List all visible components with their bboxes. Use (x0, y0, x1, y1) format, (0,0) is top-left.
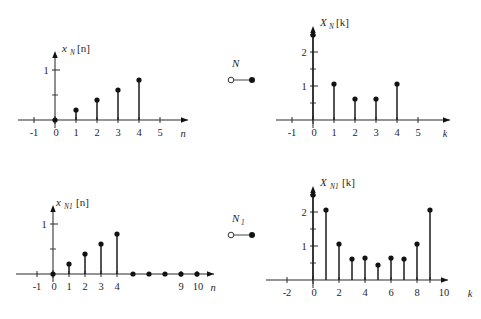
x-tick-label: 10 (439, 287, 450, 298)
y-tick-label: 1 (41, 219, 46, 230)
title-subscript: N (69, 48, 76, 57)
x-ticks (287, 276, 430, 288)
x-tick-label: 1 (73, 127, 78, 138)
x-tick-label: 0 (53, 127, 58, 138)
x-tick-labels: -2 0 2 4 6 8 10 (283, 287, 450, 298)
x-tick-label: -1 (30, 127, 39, 138)
plot-bottom-right: -2 0 2 4 6 8 10 1 2 k X N1 [k] (258, 168, 478, 308)
x-tick-label: 9 (178, 281, 183, 292)
plot-bottom-left: -1 0 1 2 3 4 9 10 1 n x N1 [n] (8, 192, 238, 302)
stem-series (50, 231, 199, 276)
plot-top-right: -1 0 1 2 3 4 5 1 2 k X N [k] (268, 8, 473, 148)
legend-label-subscript: 1 (241, 218, 245, 227)
x-tick-label: 1 (66, 281, 71, 292)
title-base: x (61, 42, 67, 54)
x-tick-label: -2 (283, 287, 292, 298)
x-tick-label: 2 (352, 127, 357, 138)
x-tick-labels: -1 0 1 2 3 4 5 (288, 127, 421, 138)
x-tick-label: 5 (157, 127, 162, 138)
x-tick-label: 0 (51, 281, 56, 292)
title-base: X (319, 16, 328, 28)
x-tick-label: 4 (114, 281, 120, 292)
title-base: X (319, 176, 328, 188)
legend-marker-pair (228, 77, 255, 83)
y-tick-labels: 1 (41, 219, 46, 230)
x-tick-label: 5 (415, 127, 420, 138)
y-tick-labels: 1 2 (301, 47, 306, 92)
filled-circle-icon (249, 232, 255, 238)
x-axis (276, 117, 450, 122)
x-tick-label: 4 (362, 287, 368, 298)
plot-title: x N [n] (61, 42, 90, 57)
x-axis-label: n (210, 282, 215, 293)
x-tick-label: 2 (82, 281, 87, 292)
x-tick-label: 4 (394, 127, 400, 138)
title-subscript: N (328, 22, 335, 31)
x-tick-label: -1 (33, 281, 42, 292)
y-ticks (310, 35, 318, 103)
y-tick-label: 1 (43, 65, 48, 76)
x-tick-label: 2 (336, 287, 341, 298)
legend-label: N (231, 212, 240, 224)
x-axis-label: k (443, 128, 448, 139)
x-axis-label: k (468, 288, 473, 299)
title-brackets: [k] (336, 16, 349, 28)
legend-marker-pair (228, 232, 255, 238)
x-tick-label: 10 (193, 281, 204, 292)
plot-title: x N1 [n] (55, 196, 89, 211)
x-tick-label: 3 (373, 127, 378, 138)
x-tick-label: 0 (311, 127, 316, 138)
y-tick-labels: 1 2 (301, 207, 306, 252)
title-brackets: [n] (76, 196, 89, 208)
x-tick-label: 1 (331, 127, 336, 138)
y-ticks (50, 224, 58, 249)
x-tick-label: 2 (94, 127, 99, 138)
stem-series (310, 32, 399, 120)
legend-N1: N 1 (218, 208, 278, 246)
legend-label: N (231, 57, 240, 69)
legend-N: N (218, 53, 278, 91)
x-tick-label: 6 (388, 287, 393, 298)
x-axis-label: n (180, 128, 185, 139)
open-circle-icon (228, 232, 234, 238)
y-tick-label: 1 (301, 241, 306, 252)
y-ticks (52, 70, 60, 95)
y-tick-label: 2 (301, 47, 306, 58)
x-tick-label: 3 (115, 127, 120, 138)
y-tick-labels: 1 (43, 65, 48, 76)
title-brackets: [n] (77, 42, 90, 54)
y-ticks (310, 195, 318, 263)
x-tick-label: 4 (136, 127, 142, 138)
y-tick-label: 1 (301, 81, 306, 92)
plot-top-left: -1 0 1 2 3 4 5 1 n x N [n] (10, 38, 215, 146)
x-tick-labels: -1 0 1 2 3 4 5 (30, 127, 163, 138)
x-axis (16, 271, 214, 276)
x-tick-label: 0 (311, 287, 316, 298)
open-circle-icon (228, 77, 234, 83)
x-axis (18, 117, 188, 122)
stem-series (52, 77, 141, 122)
stem-series (310, 192, 432, 280)
title-brackets: [k] (342, 176, 355, 188)
x-tick-labels: -1 0 1 2 3 4 9 10 (33, 281, 204, 292)
title-subscript: N1 (63, 202, 73, 211)
x-axis (266, 277, 448, 282)
title-subscript: N1 (329, 182, 339, 191)
x-tick-label: 8 (414, 287, 419, 298)
title-base: x (55, 196, 61, 208)
y-tick-label: 2 (301, 207, 306, 218)
x-tick-label: 3 (98, 281, 103, 292)
filled-circle-icon (249, 77, 255, 83)
plot-title: X N [k] (319, 16, 349, 31)
figure-canvas: -1 0 1 2 3 4 5 1 n x N [n] (0, 0, 481, 319)
y-axis (52, 51, 57, 124)
plot-title: X N1 [k] (319, 176, 355, 191)
y-axis (50, 205, 55, 278)
x-tick-label: -1 (288, 127, 297, 138)
